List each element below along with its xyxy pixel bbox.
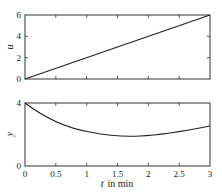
top-ytick-2: 2	[17, 53, 22, 63]
y-series-curve	[25, 103, 210, 136]
bottom-ytick-4: 4	[17, 98, 22, 108]
xlabel: tin min	[101, 178, 134, 189]
u-series-line	[25, 15, 210, 79]
xtick-2.5: 2.5	[174, 169, 186, 179]
xtick-1: 1	[84, 169, 89, 179]
bottom-ytick-0: 0	[17, 161, 22, 171]
bottom-axes: 0 4 y 0 0.5 1 1.5 2 2.5 3 tin min	[4, 98, 213, 189]
bottom-ylabel: y	[4, 131, 15, 137]
chart-figure: 0 2 4 6 u 0 4 y 0 0.5 1 1.5 2 2.5 3 tin …	[0, 0, 222, 194]
top-ylabel: u	[4, 45, 15, 50]
top-ytick-0: 0	[17, 74, 22, 84]
xtick-2: 2	[146, 169, 151, 179]
top-ytick-4: 4	[17, 31, 22, 41]
top-axes: 0 2 4 6 u	[4, 10, 210, 84]
xtick-3: 3	[208, 169, 213, 179]
xtick-0: 0	[23, 169, 28, 179]
top-ytick-6: 6	[17, 10, 22, 20]
xtick-0.5: 0.5	[50, 169, 62, 179]
